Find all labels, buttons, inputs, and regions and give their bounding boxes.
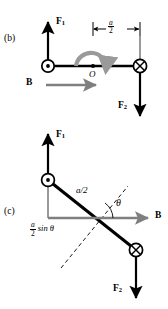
current-out-of-page-icon-panel-c <box>42 174 55 187</box>
fraction-a-2: a 2 <box>108 19 114 35</box>
torque-curved-arrow <box>76 53 106 70</box>
arm-length-label: a/2 <box>76 186 88 195</box>
current-into-page-icon-panel-b <box>133 59 146 72</box>
moment-arm-numerator: a <box>30 221 36 229</box>
panel-b-label: (b) <box>4 34 15 44</box>
f1-subscript-b: 1 <box>62 19 65 26</box>
f2-subscript-b: 2 <box>124 103 127 110</box>
current-bar-panel-c <box>48 180 136 250</box>
force-f2-label-panel-b: F2 <box>118 101 127 111</box>
fraction-denominator: 2 <box>108 26 114 35</box>
angle-theta-label: θ <box>116 198 121 208</box>
dimension-a-over-2-label: a 2 <box>108 15 114 35</box>
f1-subscript-c: 1 <box>62 132 65 139</box>
force-f1-label-panel-c: F1 <box>56 130 65 140</box>
fraction-a-2-panel-c: a 2 <box>30 221 36 237</box>
pivot-o-label: O <box>89 70 96 79</box>
force-f2-label-panel-c: F2 <box>113 284 122 294</box>
fraction-numerator: a <box>108 19 114 27</box>
force-f1-label-panel-b: F1 <box>56 17 65 27</box>
moment-arm-denominator: 2 <box>30 229 36 238</box>
pivot-point-o <box>91 64 95 68</box>
physics-figure: (b) F1 a 2 B O F2 (c) F1 a/2 θ a 2 sin θ… <box>0 0 168 309</box>
figure-canvas <box>0 0 168 309</box>
f2-subscript-c: 2 <box>119 286 122 293</box>
field-b-label-panel-b: B <box>26 78 32 88</box>
dimension-a-over-2 <box>93 22 140 36</box>
panel-c-graphics <box>42 134 148 298</box>
panel-c-label: (c) <box>4 207 15 217</box>
current-into-page-icon-panel-c <box>129 243 142 256</box>
current-out-of-page-icon-panel-b <box>42 60 54 72</box>
moment-arm-label: a 2 sin θ <box>30 221 54 237</box>
field-b-label-panel-c: B <box>155 211 161 221</box>
moment-arm-sin-theta: sin θ <box>36 223 54 233</box>
